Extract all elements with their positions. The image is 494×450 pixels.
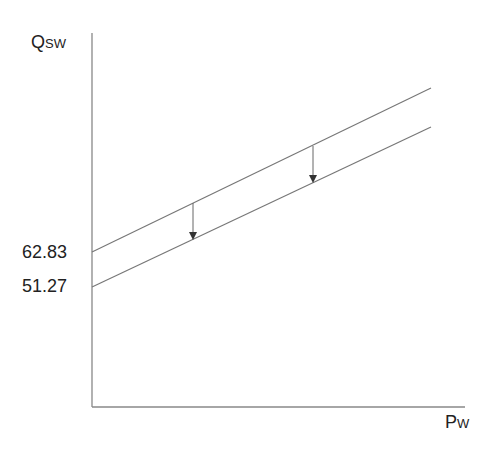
x-axis-label: PW xyxy=(445,412,469,433)
y-tick-label-upper: 62.83 xyxy=(22,242,67,263)
chart-canvas xyxy=(0,0,494,450)
upper-supply-line xyxy=(92,88,431,252)
y-axis-label: QSW xyxy=(31,32,66,53)
y-tick-label-lower: 51.27 xyxy=(22,276,67,297)
lower-supply-line xyxy=(92,127,431,287)
arrow-down-icon xyxy=(189,232,197,240)
